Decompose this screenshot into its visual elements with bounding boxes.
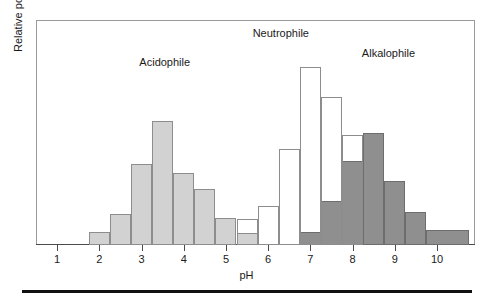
x-tick-8 — [353, 245, 354, 251]
bar-neutrophile-2 — [279, 149, 300, 245]
bar-neutrophile-0 — [237, 219, 258, 245]
x-tick-9 — [395, 245, 396, 251]
bar-acidophile-6 — [215, 218, 236, 245]
series-label-neutrophile: Neutrophile — [253, 27, 309, 39]
x-tick-label-6: 6 — [256, 252, 280, 266]
bar-acidophile-5 — [194, 189, 215, 245]
x-tick-label-10: 10 — [425, 252, 449, 266]
x-tick-3 — [142, 245, 143, 251]
x-tick-4 — [184, 245, 185, 251]
bar-alkalophile-3 — [363, 133, 384, 246]
series-label-acidophile: Acidophile — [139, 56, 190, 68]
bar-neutrophile-5 — [342, 135, 363, 245]
bar-alkalophile-4 — [384, 181, 405, 245]
x-tick-10 — [437, 245, 438, 251]
bar-neutrophile-1 — [258, 206, 279, 245]
x-tick-label-2: 2 — [87, 252, 111, 266]
bar-acidophile-1 — [110, 214, 131, 246]
x-tick-label-4: 4 — [172, 252, 196, 266]
bar-acidophile-0 — [89, 232, 110, 246]
bar-acidophile-4 — [173, 173, 194, 245]
x-tick-2 — [99, 245, 100, 251]
x-tick-6 — [268, 245, 269, 251]
bar-neutrophile-4 — [321, 97, 342, 246]
y-axis-title: Relative population density — [12, 0, 24, 52]
x-axis-title: pH — [0, 269, 493, 281]
bar-acidophile-2 — [131, 164, 152, 245]
x-tick-label-9: 9 — [383, 252, 407, 266]
x-tick-label-7: 7 — [298, 252, 322, 266]
bar-alkalophile-6 — [426, 230, 468, 245]
x-tick-label-3: 3 — [130, 252, 154, 266]
x-tick-label-1: 1 — [45, 252, 69, 266]
ph-population-density-figure: 12345678910 pH Relative population densi… — [0, 0, 493, 304]
bar-acidophile-3 — [152, 121, 173, 245]
series-label-alkalophile: Alkalophile — [362, 47, 415, 59]
x-tick-label-5: 5 — [214, 252, 238, 266]
bar-alkalophile-5 — [405, 212, 426, 245]
x-tick-7 — [310, 245, 311, 251]
bottom-horizontal-rule — [22, 290, 472, 293]
bar-neutrophile-3 — [300, 67, 321, 245]
x-tick-1 — [57, 245, 58, 251]
x-tick-label-8: 8 — [341, 252, 365, 266]
x-tick-5 — [226, 245, 227, 251]
